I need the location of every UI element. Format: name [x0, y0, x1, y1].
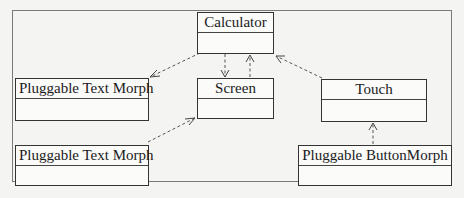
arrowhead-icon: [276, 56, 285, 63]
class-pluggable-button-morph: Pluggable ButtonMorph: [298, 145, 452, 186]
class-touch: Touch: [321, 79, 427, 122]
class-pluggable-text-morph-top: Pluggable Text Morph: [15, 78, 149, 121]
class-screen: Screen: [197, 78, 274, 119]
class-body: [16, 166, 148, 185]
class-body: [16, 99, 148, 120]
class-body: [198, 33, 273, 53]
dependency-calculator-to-ptm-top: [150, 53, 200, 77]
class-name: Pluggable Text Morph: [16, 146, 148, 166]
dependency-ptm-bottom-to-screen: [148, 118, 195, 142]
class-pluggable-text-morph-bottom: Pluggable Text Morph: [15, 145, 149, 186]
class-body: [198, 99, 273, 118]
arrowhead-icon: [150, 70, 160, 77]
class-name: Screen: [198, 79, 273, 99]
class-calculator: Calculator: [197, 12, 274, 54]
class-name: Touch: [322, 80, 426, 100]
class-body: [322, 100, 426, 121]
class-name: Pluggable ButtonMorph: [299, 146, 451, 166]
arrowhead-icon: [185, 118, 195, 125]
class-name: Pluggable Text Morph: [16, 79, 148, 99]
class-body: [299, 166, 451, 185]
class-name: Calculator: [198, 13, 273, 33]
dependency-touch-to-calculator: [276, 56, 322, 78]
